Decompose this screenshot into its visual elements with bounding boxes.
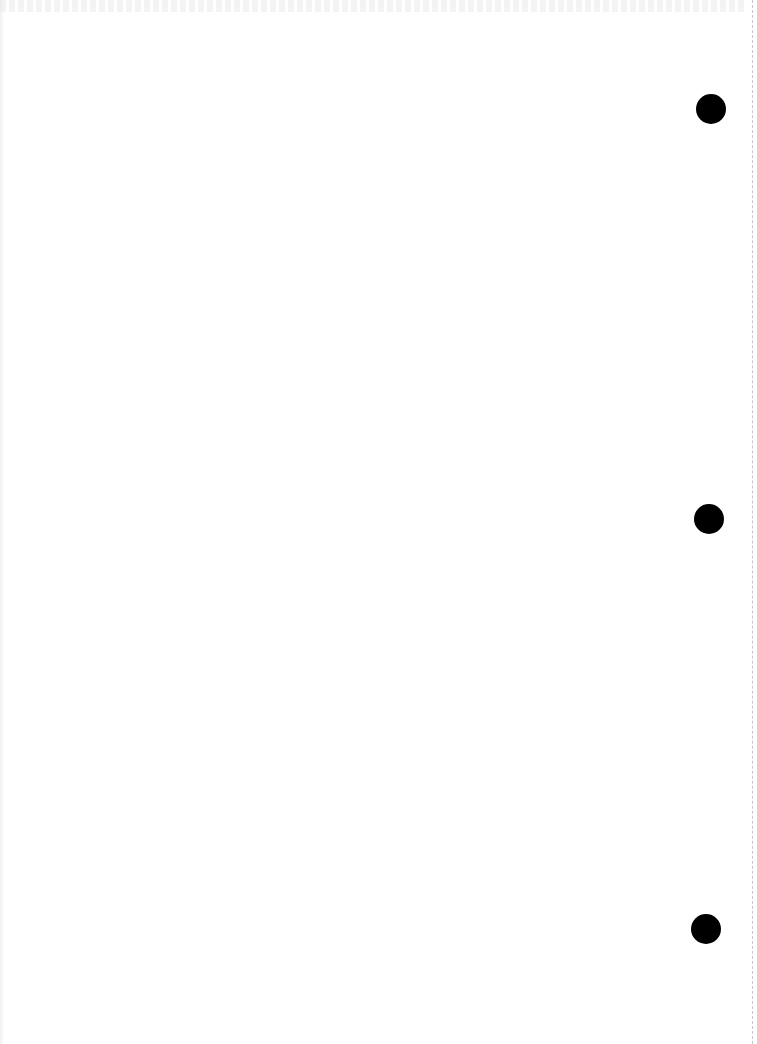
- punch-hole-top: [696, 94, 726, 124]
- bleed-through-marks: [0, 0, 745, 12]
- left-edge-shadow: [0, 0, 4, 1044]
- punch-hole-middle: [694, 504, 724, 534]
- punch-hole-bottom: [691, 914, 721, 944]
- page-edge-dashed-line: [752, 0, 753, 1044]
- scanned-page: [0, 0, 757, 1044]
